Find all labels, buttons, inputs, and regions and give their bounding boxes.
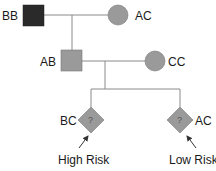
pedigree-svg: BB AC AB CC ? BC ? AC High Risk Low Risk [0,0,216,171]
son-genotype-label: AB [40,55,56,69]
father-genotype-label: BB [2,9,18,23]
mother-circle [108,5,128,25]
low-risk-label: Low Risk [169,153,216,167]
high-risk-arrow-icon [79,136,88,148]
father-affected-square [23,5,44,26]
son-square [61,50,82,71]
high-risk-label: High Risk [58,153,110,167]
child1-genotype-label: BC [60,114,77,128]
child2-unknown-symbol: ? [177,115,182,125]
child1-unknown-symbol: ? [88,115,93,125]
child2-genotype-label: AC [195,114,212,128]
pedigree-diagram: BB AC AB CC ? BC ? AC High Risk Low Risk [0,0,216,171]
mother-genotype-label: AC [135,9,152,23]
partner-genotype-label: CC [168,55,186,69]
low-risk-arrow-icon [187,136,196,148]
partner-circle [145,51,165,71]
